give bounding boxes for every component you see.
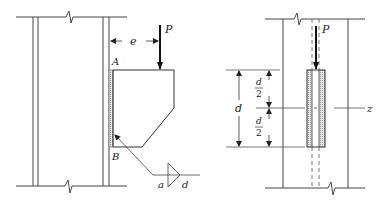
half-depth-top-denominator: 2 bbox=[256, 89, 262, 99]
bracket-connection-diagram: P e A B a d P z bbox=[0, 0, 385, 208]
weld-length-label: d bbox=[182, 179, 188, 190]
z-axis-label: z bbox=[366, 103, 373, 114]
weld-left-strip bbox=[307, 70, 312, 147]
point-b-label: B bbox=[111, 151, 119, 162]
half-depth-bottom-numerator: d bbox=[256, 116, 262, 126]
weld-size-label: a bbox=[158, 179, 164, 190]
half-depth-top-numerator: d bbox=[256, 77, 262, 87]
weld-hatch bbox=[109, 70, 113, 147]
weld-right-strip bbox=[319, 70, 325, 147]
bottom-break-line-right bbox=[265, 182, 365, 195]
point-a-label: A bbox=[111, 56, 119, 67]
weld-leader bbox=[115, 135, 200, 175]
depth-label: d bbox=[235, 102, 242, 115]
load-label: P bbox=[164, 23, 173, 36]
eccentricity-label: e bbox=[130, 35, 137, 48]
top-break-line-right bbox=[265, 13, 365, 25]
load-label-right: P bbox=[321, 23, 330, 36]
bracket-plate bbox=[113, 70, 174, 147]
half-depth-bottom-denominator: 2 bbox=[256, 128, 262, 138]
